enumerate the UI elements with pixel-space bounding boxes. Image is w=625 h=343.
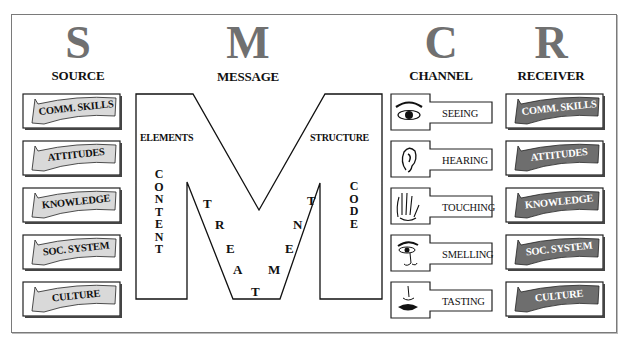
vertical-letter: E: [348, 218, 360, 230]
treatment-letter: T: [251, 284, 260, 300]
receiver-item: CULTURE: [505, 281, 606, 319]
channel-label: TOUCHING: [442, 202, 495, 213]
structure-label: STRUCTURE: [310, 132, 369, 143]
treatment-letter: T: [203, 196, 212, 212]
vertical-letter: N: [153, 193, 165, 205]
vertical-letter: D: [348, 205, 360, 217]
channel-label: TASTING: [442, 296, 485, 307]
source-item: SOC. SYSTEM: [22, 234, 123, 272]
channel-item-seeing: SEEING: [390, 93, 500, 131]
receiver-letter: R: [521, 20, 581, 66]
vertical-letter: T: [153, 243, 165, 255]
channel-label: SMELLING: [442, 249, 493, 260]
source-item: CULTURE: [22, 281, 123, 319]
channel-item-touching: TOUCHING: [390, 187, 500, 225]
vertical-letter: C: [348, 180, 360, 192]
elements-label: ELEMENTS: [140, 132, 193, 143]
receiver-title: RECEIVER: [501, 68, 601, 84]
vertical-letter: N: [153, 231, 165, 243]
vertical-letter: T: [153, 206, 165, 218]
channel-title: CHANNEL: [391, 68, 491, 84]
treatment-letter: E: [285, 241, 294, 257]
vertical-letter: O: [153, 181, 165, 193]
receiver-item: COMM. SKILLS: [505, 93, 606, 131]
receiver-item: SOC. SYSTEM: [505, 234, 606, 272]
channel-label: HEARING: [442, 155, 488, 166]
treatment-letter: A: [233, 262, 242, 278]
receiver-item: KNOWLEDGE: [505, 187, 606, 225]
source-item: ATTITUDES: [22, 140, 123, 178]
channel-item-smelling: SMELLING: [390, 234, 500, 272]
treatment-letter: T: [307, 193, 316, 209]
channel-item-tasting: TASTING: [390, 281, 500, 319]
channel-letter: C: [411, 20, 471, 66]
treatment-letter: M: [268, 262, 280, 278]
receiver-item: ATTITUDES: [505, 140, 606, 178]
channel-label: SEEING: [442, 108, 478, 119]
channel-item-hearing: HEARING: [390, 140, 500, 178]
treatment-letter: N: [293, 217, 302, 233]
vertical-letter: E: [153, 218, 165, 230]
message-title: MESSAGE: [198, 69, 298, 85]
source-letter: S: [48, 20, 108, 66]
source-item: COMM. SKILLS: [22, 93, 123, 131]
source-title: SOURCE: [28, 68, 128, 84]
source-item: KNOWLEDGE: [22, 187, 123, 225]
message-letter: M: [218, 20, 278, 66]
vertical-letter: C: [153, 168, 165, 180]
treatment-letter: E: [226, 241, 235, 257]
treatment-letter: R: [215, 217, 224, 233]
vertical-letter: O: [348, 193, 360, 205]
